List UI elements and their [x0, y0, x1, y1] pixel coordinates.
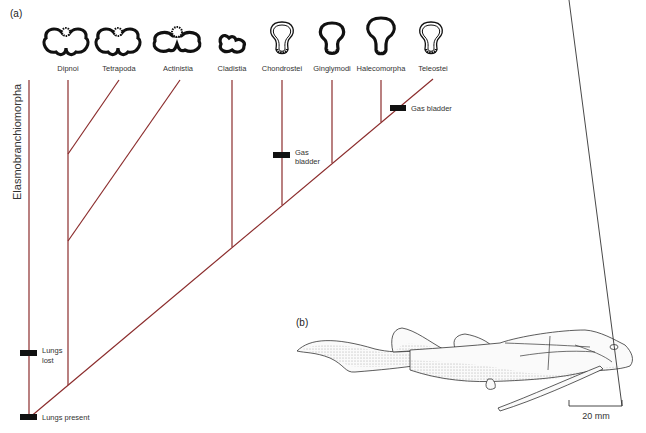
- character-label-gas-bladder-teleostei: Gas bladder: [411, 104, 452, 113]
- panel-a-label: (a): [10, 8, 22, 19]
- character-label-gas-bladder-2: bladder: [295, 157, 321, 166]
- lung-icon-actinistia: [154, 27, 200, 51]
- taxon-label-ginglymodi: Ginglymodi: [313, 64, 351, 73]
- character-bar-gas-bladder-teleostei: [390, 105, 406, 111]
- lung-icon-teleostei: [420, 22, 443, 54]
- lung-icon-ginglymodi: [320, 23, 343, 54]
- character-label-gas-bladder-1: Gas: [295, 148, 309, 157]
- taxon-label-cladistia: Cladistia: [218, 64, 248, 73]
- lung-icon-halecomorpha: [368, 18, 395, 54]
- panel-b-label: (b): [296, 317, 308, 328]
- fish-illustration: [297, 328, 632, 411]
- taxon-label-dipnoi: Dipnoi: [57, 64, 79, 73]
- taxon-label-tetrapoda: Tetrapoda: [102, 64, 136, 73]
- lung-icon-dipnoi: [44, 28, 88, 55]
- character-bar-lungs-present: [20, 414, 37, 420]
- lung-icon-cladistia: [220, 36, 244, 53]
- scale-bar-label: 20 mm: [582, 411, 610, 421]
- character-label-lungs-lost-1: Lungs: [42, 346, 63, 355]
- character-bar-lungs-lost: [20, 350, 37, 356]
- character-label-lungs-lost-2: lost: [42, 356, 55, 365]
- taxon-label-teleostei: Teleostei: [418, 64, 448, 73]
- taxon-label-actinistia: Actinistia: [163, 64, 194, 73]
- character-bar-gas-bladder-chondrostei: [273, 152, 290, 158]
- outgroup-label: Elasmobranchiomorpha: [11, 83, 23, 200]
- lung-icon-chondrostei: [271, 22, 294, 54]
- branch-tetrapoda: [68, 80, 119, 154]
- taxon-label-chondrostei: Chondrostei: [262, 64, 303, 73]
- character-label-lungs-present: Lungs present: [42, 413, 90, 422]
- taxon-label-halecomorpha: Halecomorpha: [357, 64, 407, 73]
- branch-actinistia: [68, 80, 180, 241]
- lung-icon-tetrapoda: [96, 28, 140, 55]
- phylogeny-figure: (a) Dipnoi Tetrapoda Actinistia Cladisti…: [0, 0, 646, 433]
